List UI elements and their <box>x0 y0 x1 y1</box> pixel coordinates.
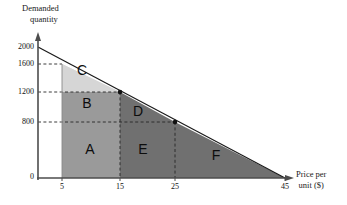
y-axis-title-line1: Demanded <box>22 3 59 13</box>
chart-plot-area <box>0 0 347 205</box>
region-label-d: D <box>128 104 148 118</box>
y-tick-label-1600: 1600 <box>8 59 34 68</box>
data-point-15-1200 <box>118 90 123 95</box>
x-tick-label-15: 15 <box>108 182 132 191</box>
x-axis-title-line1: Price per <box>296 169 326 180</box>
y-axis-title-line2: quantity <box>22 14 59 25</box>
region-label-e: E <box>133 142 153 156</box>
region-label-b: B <box>77 96 97 110</box>
region-label-a: A <box>80 142 100 156</box>
data-point-25-800 <box>173 120 178 125</box>
demand-curve-figure: Demanded quantity Price per unit ($) 200… <box>0 0 347 205</box>
y-tick-label-0: 0 <box>8 172 34 181</box>
x-tick-label-25: 25 <box>163 182 187 191</box>
y-tick-label-800: 800 <box>8 117 34 126</box>
region-label-f: F <box>206 148 226 162</box>
y-axis-arrow <box>35 32 41 41</box>
x-axis-title-line2: unit ($) <box>296 180 326 191</box>
x-axis-title: Price per unit ($) <box>296 169 326 190</box>
x-tick-label-45: 45 <box>273 182 297 191</box>
y-tick-label-1200: 1200 <box>8 87 34 96</box>
region-label-c: C <box>72 63 92 77</box>
y-tick-label-2000: 2000 <box>8 42 34 51</box>
x-axis-arrow <box>285 175 294 181</box>
x-tick-label-5: 5 <box>50 182 74 191</box>
y-axis-title: Demanded quantity <box>22 3 59 24</box>
